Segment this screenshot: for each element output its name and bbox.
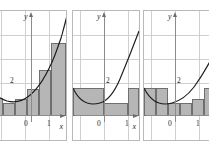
y-axis-label: y [168, 13, 172, 21]
x-tick-label-0: 0 [168, 120, 172, 128]
y-axis [31, 15, 32, 122]
y-tick-label-2: 2 [106, 77, 110, 85]
x-axis [75, 115, 133, 116]
y-axis-arrow-icon [102, 12, 106, 17]
x-axis-label: x [59, 123, 63, 131]
y-tick-label-2: 2 [177, 77, 181, 85]
y-axis [104, 15, 105, 122]
riemann-panel-right: y x 0 1 2 [143, 10, 209, 141]
x-axis-label: x [132, 123, 136, 131]
y-tick-label-2: 2 [10, 77, 14, 85]
y-axis-arrow-icon [29, 12, 33, 17]
x-tick-label-1: 1 [196, 120, 200, 128]
plot-area-left: y x 0 1 2 [0, 11, 66, 140]
x-tick-label-1: 1 [47, 120, 51, 128]
x-axis-arrow-icon [60, 114, 65, 118]
figure-canvas: y x 0 1 2 y x [0, 0, 209, 150]
plot-area-middle: y x 0 1 2 [73, 11, 139, 140]
x-axis [0, 115, 60, 116]
plot-area-right: y x 0 1 2 [144, 11, 209, 140]
y-axis-label: y [97, 13, 101, 21]
x-tick-label-0: 0 [97, 120, 101, 128]
x-axis [146, 115, 209, 116]
y-axis-arrow-icon [173, 12, 177, 17]
x-axis-arrow-icon [133, 114, 138, 118]
x-tick-label-0: 0 [24, 120, 28, 128]
riemann-panel-left: y x 0 1 2 [0, 10, 67, 141]
y-axis-label: y [24, 13, 28, 21]
y-axis [175, 15, 176, 122]
x-tick-label-1: 1 [125, 120, 129, 128]
riemann-panel-middle: y x 0 1 2 [72, 10, 140, 141]
